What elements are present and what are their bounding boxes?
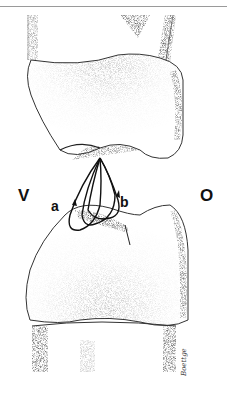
upper-segment	[28, 54, 184, 160]
label-o: O	[200, 187, 213, 204]
upper-column	[27, 15, 176, 62]
illustration	[0, 0, 227, 396]
label-a: a	[51, 199, 59, 213]
label-b: b	[120, 195, 129, 209]
lower-segment	[26, 205, 188, 326]
lower-column	[32, 322, 176, 372]
label-v: V	[18, 187, 29, 204]
artist-signature: Boettge	[180, 348, 188, 376]
figure: V O a b Boettge	[0, 0, 227, 396]
